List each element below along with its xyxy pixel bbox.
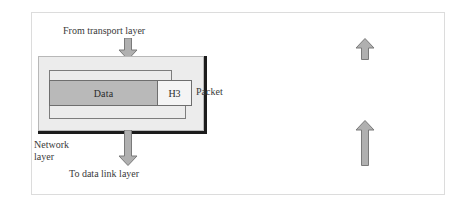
left-lower-bracket	[49, 105, 186, 119]
left-data-cell: Data	[49, 80, 158, 106]
left-panel-sending-side: From transport layer Data H3 Packet Netw…	[0, 0, 238, 206]
arrow-up-from-data-link	[355, 120, 375, 166]
arrow-down-to-data-link	[118, 130, 138, 166]
left-packet-unit: Data H3	[49, 80, 192, 106]
left-top-label: From transport layer	[63, 25, 145, 37]
left-layer-label-line1: Network	[34, 139, 69, 150]
right-panel-receiving-side: To transport layer Data H3 Packet Networ…	[237, 0, 475, 206]
left-layer-label: Network layer	[34, 139, 69, 163]
figure-canvas: From transport layer Data H3 Packet Netw…	[0, 0, 475, 206]
left-bottom-label: To data link layer	[69, 168, 139, 180]
left-header-h3-cell: H3	[158, 80, 192, 106]
left-layer-label-line2: layer	[34, 151, 54, 162]
left-packet-label: Packet	[196, 86, 223, 97]
arrow-up-to-transport	[355, 38, 375, 60]
